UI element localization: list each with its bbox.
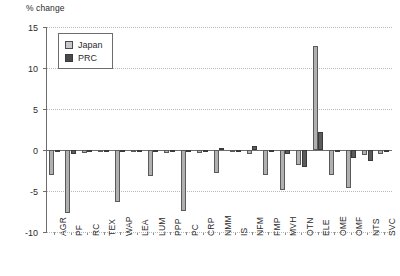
- x-category-label: RC: [91, 223, 101, 236]
- y-tick: -5: [43, 191, 47, 192]
- legend-swatch-icon-japan: [65, 41, 73, 49]
- y-tick: 15: [43, 27, 47, 28]
- bar-japan-ele: [313, 46, 318, 150]
- x-category-label: SVC: [387, 218, 397, 236]
- bar-japan-agr: [49, 150, 54, 175]
- bar-prc-fmp: [269, 150, 274, 152]
- bar-prc-ome: [335, 150, 340, 152]
- bar-japan-rc: [82, 150, 87, 153]
- x-category-label: TEX: [107, 219, 117, 236]
- bar-prc-lea: [137, 150, 142, 152]
- bar-japan-is: [230, 150, 235, 152]
- bar-japan-lum: [148, 150, 153, 176]
- x-category-label: NTS: [371, 218, 381, 236]
- bar-japan-crp: [197, 150, 202, 153]
- gridline: [46, 191, 392, 192]
- bar-prc-otn: [302, 150, 307, 167]
- x-category-label: AGR: [58, 217, 68, 236]
- bar-prc-rc: [87, 150, 92, 152]
- bar-japan-nts: [362, 150, 367, 155]
- bar-japan-ppp: [164, 150, 169, 153]
- y-tick: -10: [43, 232, 47, 233]
- bar-chart-figure: % change 151050-5-10 AGRPFRCTEXWAPLEALUM…: [0, 0, 400, 276]
- bar-japan-pc: [181, 150, 186, 211]
- legend-swatch-icon-prc: [65, 54, 73, 62]
- x-category-label: OMF: [354, 217, 364, 236]
- legend-label: PRC: [78, 53, 97, 63]
- x-category-label: OTN: [305, 217, 315, 236]
- bar-prc-pc: [186, 150, 191, 152]
- y-tick-label: -10: [25, 228, 38, 238]
- y-axis: 151050-5-10: [46, 27, 47, 232]
- x-category-label: PC: [190, 224, 200, 236]
- legend-item-japan[interactable]: Japan: [65, 38, 103, 51]
- bar-japan-svc: [378, 150, 383, 154]
- y-axis-title: % change: [26, 3, 65, 13]
- bar-prc-is: [236, 150, 241, 152]
- bar-japan-nfm: [247, 150, 252, 154]
- bar-prc-tex: [104, 150, 109, 152]
- bar-prc-wap: [120, 150, 125, 152]
- x-category-label: ELE: [321, 219, 331, 236]
- y-tick: 0: [43, 150, 47, 151]
- x-category-label: LEA: [140, 219, 150, 236]
- bar-prc-ppp: [170, 150, 175, 152]
- bar-prc-agr: [55, 150, 60, 152]
- bar-prc-crp: [203, 150, 208, 152]
- y-tick-label: 15: [28, 23, 38, 33]
- bar-japan-nmm: [214, 150, 219, 173]
- bar-prc-nfm: [252, 146, 257, 150]
- bar-prc-nts: [368, 150, 373, 161]
- bar-prc-nmm: [219, 148, 224, 150]
- bar-japan-pf: [65, 150, 70, 213]
- legend-label: Japan: [78, 40, 103, 50]
- x-category-label: PF: [74, 225, 84, 236]
- bar-prc-mvh: [285, 150, 290, 154]
- y-tick: 5: [43, 109, 47, 110]
- x-category-label: NFM: [255, 217, 265, 236]
- bar-prc-svc: [384, 150, 389, 152]
- y-tick-label: 5: [33, 105, 38, 115]
- legend-item-prc[interactable]: PRC: [65, 51, 103, 64]
- y-tick: 10: [43, 68, 47, 69]
- x-category-label: IS: [239, 228, 249, 236]
- chart-legend: JapanPRC: [58, 33, 113, 69]
- gridline: [46, 27, 392, 28]
- bar-japan-tex: [98, 150, 103, 152]
- bar-japan-omf: [346, 150, 351, 188]
- bar-japan-fmp: [263, 150, 268, 175]
- gridline: [46, 109, 392, 110]
- y-tick-label: 10: [28, 64, 38, 74]
- bar-prc-ele: [318, 132, 323, 150]
- x-category-label: CRP: [206, 217, 216, 236]
- bar-japan-mvh: [280, 150, 285, 190]
- x-category-label: LUM: [157, 217, 167, 236]
- x-category-label: PPP: [173, 218, 183, 236]
- x-category-label: FMP: [272, 217, 282, 236]
- y-tick-label: 0: [33, 146, 38, 156]
- x-category-label: WAP: [124, 216, 134, 236]
- bar-japan-ome: [329, 150, 334, 175]
- bar-prc-omf: [351, 150, 356, 158]
- bar-prc-lum: [153, 150, 158, 152]
- bar-japan-wap: [115, 150, 120, 202]
- bar-japan-lea: [131, 150, 136, 152]
- x-category-label: MVH: [288, 217, 298, 237]
- bar-prc-pf: [71, 150, 76, 154]
- x-category-label: OME: [338, 216, 348, 236]
- x-category-label: NMM: [223, 215, 233, 236]
- bar-japan-otn: [296, 150, 301, 165]
- y-tick-label: -5: [30, 187, 38, 197]
